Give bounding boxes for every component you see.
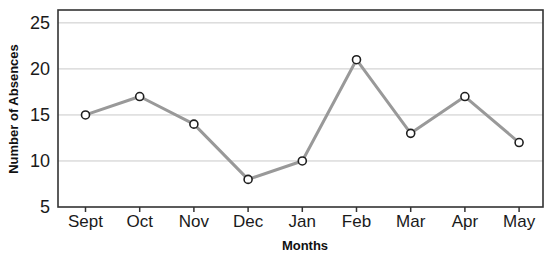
data-point-marker [82,111,90,119]
x-tick-label: Nov [166,212,222,232]
x-tick-label: Jan [274,212,330,232]
absences-line-chart: Number of Absences Months 510152025SeptO… [0,0,547,258]
data-point-marker [244,175,252,183]
x-tick-label: May [491,212,547,232]
data-point-marker [190,120,198,128]
y-tick-label: 5 [0,196,50,218]
data-point-marker [298,157,306,165]
x-tick-label: Mar [383,212,439,232]
data-point-marker [461,93,469,101]
x-tick-label: Apr [437,212,493,232]
y-tick-label: 10 [0,150,50,172]
x-tick-label: Dec [220,212,276,232]
x-tick-label: Feb [329,212,385,232]
plot-border [58,10,543,207]
y-tick-label: 20 [0,58,50,80]
data-point-marker [353,56,361,64]
data-point-marker [515,139,523,147]
y-tick-label: 25 [0,12,50,34]
data-point-marker [136,93,144,101]
x-axis-title: Months [260,238,350,253]
data-point-marker [407,129,415,137]
x-tick-label: Oct [112,212,168,232]
y-tick-label: 15 [0,104,50,126]
x-tick-label: Sept [58,212,114,232]
